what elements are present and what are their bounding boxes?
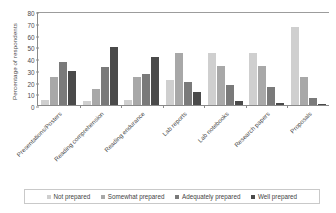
legend-label: Well prepared (258, 193, 297, 200)
bar-group (246, 13, 288, 105)
bar (208, 53, 216, 105)
legend-item[interactable]: Well prepared (251, 193, 297, 200)
bar (193, 92, 201, 105)
bar (101, 67, 109, 105)
legend-item[interactable]: Not prepared (47, 193, 90, 200)
bar (184, 82, 192, 106)
bar (68, 71, 76, 105)
bar (318, 104, 326, 105)
y-axis-tick-mark (36, 13, 39, 14)
bar (235, 101, 243, 105)
legend-swatch-icon (101, 195, 105, 199)
bar (83, 101, 91, 105)
bar (124, 100, 132, 105)
legend-item[interactable]: Somewhat prepared (101, 193, 164, 200)
legend-swatch-icon (175, 195, 179, 199)
bar-group (38, 13, 80, 105)
x-axis-label-slot: Proposals (287, 107, 329, 167)
bar-group (80, 13, 122, 105)
bar (300, 77, 308, 105)
bar (309, 98, 317, 105)
bar (291, 27, 299, 105)
legend-label: Not prepared (53, 193, 90, 200)
y-axis-tick-mark (36, 95, 39, 96)
bar (276, 103, 284, 105)
legend-label: Somewhat prepared (108, 193, 165, 200)
bar (166, 80, 174, 105)
bar-chart: Percentage of respondents 01020304050607… (0, 0, 336, 213)
x-axis-labels: Presentations/PostersReading comprehensi… (37, 107, 329, 167)
bar (217, 66, 225, 105)
plot-area: 01020304050607080 (37, 12, 329, 106)
bar-group (204, 13, 246, 105)
y-axis-title: Percentage of respondents (11, 7, 18, 117)
legend-swatch-icon (47, 195, 51, 199)
x-axis-label: Lab reports (161, 110, 188, 137)
bar-group (287, 13, 329, 105)
bar (226, 85, 234, 105)
bar (50, 77, 58, 105)
bar-group (121, 13, 163, 105)
x-axis-label-slot: Reading endurance (120, 107, 162, 167)
bar (59, 62, 67, 105)
y-axis-tick-mark (36, 48, 39, 49)
bar (92, 89, 100, 105)
y-axis-tick-mark (36, 71, 39, 72)
bar (258, 66, 266, 105)
x-axis-label: Presentations/Posters (15, 110, 63, 158)
bar (151, 57, 159, 105)
x-axis-label-slot: Research papers (246, 107, 288, 167)
chart-legend: Not preparedSomewhat preparedAdequately … (24, 189, 320, 204)
legend-item[interactable]: Adequately prepared (175, 193, 240, 200)
y-axis-tick-mark (36, 60, 39, 61)
bar (142, 74, 150, 105)
bar (133, 77, 141, 105)
y-axis-tick-mark (36, 24, 39, 25)
y-axis-tick-mark (36, 83, 39, 84)
bar (267, 87, 275, 105)
bar-group (163, 13, 205, 105)
bar (110, 47, 118, 105)
legend-label: Adequately prepared (182, 193, 240, 200)
bar (249, 53, 257, 105)
bar (175, 53, 183, 105)
bar-groups (38, 13, 329, 105)
y-axis-tick-mark (36, 36, 39, 37)
bar (41, 100, 49, 105)
x-axis-label: Proposals (289, 110, 313, 134)
legend-swatch-icon (251, 195, 255, 199)
